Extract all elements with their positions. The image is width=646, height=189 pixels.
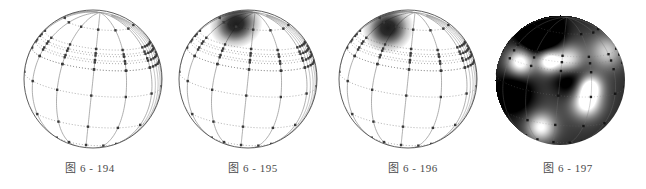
sphere-graphic xyxy=(337,8,479,150)
grid-node xyxy=(410,52,412,54)
grid-node xyxy=(97,28,99,30)
meridian-line-cluster xyxy=(266,15,315,128)
grid-node xyxy=(152,48,154,50)
parallel-line xyxy=(347,47,474,71)
grid-node xyxy=(458,50,460,52)
grid-node xyxy=(147,52,149,54)
grid-node xyxy=(85,144,87,146)
grid-node xyxy=(442,27,444,29)
grid-node xyxy=(123,55,125,57)
grid-node xyxy=(117,127,119,129)
grid-node xyxy=(223,141,225,143)
grid-node xyxy=(465,58,467,60)
grid-node xyxy=(64,54,66,56)
grid-node xyxy=(216,63,218,65)
parallel-line xyxy=(187,47,314,71)
meridian-line xyxy=(96,12,126,147)
grid-node xyxy=(125,70,127,72)
grid-node xyxy=(412,28,414,30)
grid-node xyxy=(299,45,301,47)
grid-node xyxy=(245,94,247,96)
grid-node xyxy=(197,48,199,50)
grid-node xyxy=(365,37,367,39)
grid-node xyxy=(358,46,360,48)
grid-node xyxy=(222,47,224,49)
grid-node xyxy=(440,96,442,98)
grid-node xyxy=(68,141,70,143)
grid-node xyxy=(302,52,304,54)
figure-caption-4: 图 6 - 197 xyxy=(490,159,646,175)
grid-node xyxy=(381,50,383,52)
grid-node xyxy=(429,29,431,31)
grid-node xyxy=(383,141,385,143)
sphere-wireframe-1 xyxy=(22,8,164,150)
grid-node xyxy=(439,62,441,64)
parallel-line xyxy=(42,32,153,55)
grid-node xyxy=(201,42,203,44)
grid-node xyxy=(382,47,384,49)
sphere-graphic xyxy=(22,8,164,150)
grid-node xyxy=(139,124,141,126)
parallel-line xyxy=(187,47,314,71)
grid-node xyxy=(376,63,378,65)
meridian-line xyxy=(411,12,441,147)
grid-node xyxy=(410,48,412,50)
grid-node xyxy=(141,46,143,48)
grid-node xyxy=(93,68,95,70)
grid-node xyxy=(223,21,225,23)
grid-node xyxy=(102,144,104,146)
grid-node xyxy=(276,49,278,51)
grid-node xyxy=(378,56,380,58)
grid-node xyxy=(347,80,349,82)
grid-node xyxy=(395,26,397,28)
grid-node xyxy=(95,48,97,50)
grid-node xyxy=(351,113,353,115)
shading-blob xyxy=(202,8,269,56)
grid-node xyxy=(149,66,151,68)
grid-node xyxy=(94,54,96,56)
grid-node xyxy=(95,52,97,54)
grid-node xyxy=(280,96,282,98)
grid-node xyxy=(150,58,152,60)
grid-node xyxy=(402,125,404,127)
parallel-line xyxy=(347,47,474,71)
grid-node xyxy=(384,43,386,45)
grid-node xyxy=(250,48,252,50)
grid-node xyxy=(43,46,45,48)
grid-node xyxy=(50,37,52,39)
grid-node xyxy=(87,125,89,127)
grid-node xyxy=(467,48,469,50)
shaded-sphere-canvas xyxy=(495,15,625,145)
figure-panel-3: 图 6 - 196 xyxy=(330,0,496,189)
grid-node xyxy=(191,113,193,115)
grid-node xyxy=(437,53,439,55)
grid-node xyxy=(67,47,69,49)
grid-node xyxy=(240,144,242,146)
grid-node xyxy=(459,45,461,47)
grid-node xyxy=(146,57,148,59)
grid-node xyxy=(198,46,200,48)
grid-node xyxy=(144,53,146,55)
grid-node xyxy=(409,61,411,63)
grid-node xyxy=(124,60,126,62)
grid-node xyxy=(94,59,96,61)
grid-node xyxy=(124,62,126,64)
grid-node xyxy=(125,96,127,98)
grid-node xyxy=(456,46,458,48)
grid-node xyxy=(462,52,464,54)
figure-panel-2: 图 6 - 195 xyxy=(170,0,336,189)
grid-node xyxy=(405,94,407,96)
grid-node xyxy=(277,53,279,55)
grid-node xyxy=(305,58,307,60)
grid-node xyxy=(461,57,463,59)
grid-node xyxy=(294,124,296,126)
grid-node xyxy=(211,89,213,91)
grid-node xyxy=(121,49,123,51)
grid-node xyxy=(361,42,363,44)
parallel-line xyxy=(179,72,316,97)
grid-node xyxy=(250,52,252,54)
grid-node xyxy=(462,59,464,61)
grid-node xyxy=(305,92,307,94)
grid-node xyxy=(66,50,68,52)
grid-node xyxy=(454,124,456,126)
